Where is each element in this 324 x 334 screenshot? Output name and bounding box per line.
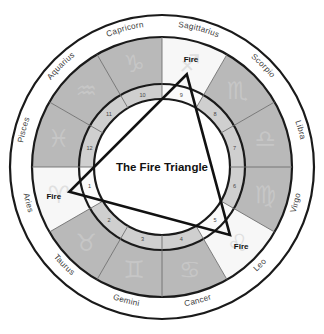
page-title: The Fire Triangle — [116, 161, 208, 173]
house-number-2: 2 — [107, 217, 110, 223]
glyph-capricorn-icon: ♑ — [124, 50, 146, 78]
house-number-10: 10 — [139, 92, 145, 98]
house-number-8: 8 — [213, 111, 216, 117]
house-number-9: 9 — [180, 92, 183, 98]
house-number-7: 7 — [233, 145, 236, 151]
glyph-taurus-icon: ♉ — [76, 229, 98, 257]
house-number-11: 11 — [106, 111, 112, 117]
zodiac-wheel-figure: ♈♉♊♋♌♍♎♏♐♑♒♓ 123456789101112 AriesTaurus… — [0, 0, 324, 334]
house-number-12: 12 — [86, 145, 92, 151]
glyph-virgo-icon: ♍ — [255, 181, 277, 209]
glyph-pisces-icon: ♓ — [48, 125, 70, 153]
house-number-3: 3 — [141, 236, 144, 242]
glyph-scorpio-icon: ♏ — [227, 77, 249, 105]
fire-label-aries: Fire — [46, 192, 61, 201]
house-number-4: 4 — [180, 236, 183, 242]
house-number-6: 6 — [233, 183, 236, 189]
glyph-gemini-icon: ♊ — [124, 256, 146, 284]
house-number-1: 1 — [88, 183, 91, 189]
house-number-5: 5 — [213, 217, 216, 223]
glyph-aquarius-icon: ♒ — [76, 77, 98, 105]
fire-label-leo: Fire — [234, 242, 249, 251]
glyph-cancer-icon: ♋ — [179, 256, 201, 284]
fire-label-sagittarius: Fire — [184, 55, 199, 64]
glyph-libra-icon: ♎ — [255, 125, 277, 153]
